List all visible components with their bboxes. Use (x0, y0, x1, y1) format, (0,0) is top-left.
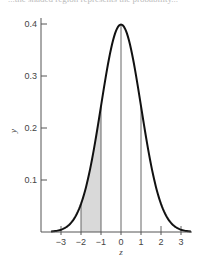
y-axis-label: y (8, 129, 18, 134)
y-tick-label: 0.4 (24, 19, 37, 29)
x-tick-label: 1 (138, 237, 143, 247)
x-tick-label: 0 (118, 237, 123, 247)
x-tick-label: 3 (178, 237, 183, 247)
x-tick-label: −1 (96, 237, 106, 247)
y-tick-label: 0.1 (24, 175, 37, 185)
x-axis-label: z (118, 247, 123, 257)
y-tick-label: 0.3 (24, 71, 37, 81)
y-tick-label: 0.2 (24, 123, 37, 133)
x-tick-label: −2 (76, 237, 86, 247)
x-tick-label: −3 (56, 237, 66, 247)
normal-curve-chart: 0.10.20.30.4−3−2−10123zy (0, 0, 207, 266)
x-tick-label: 2 (158, 237, 163, 247)
